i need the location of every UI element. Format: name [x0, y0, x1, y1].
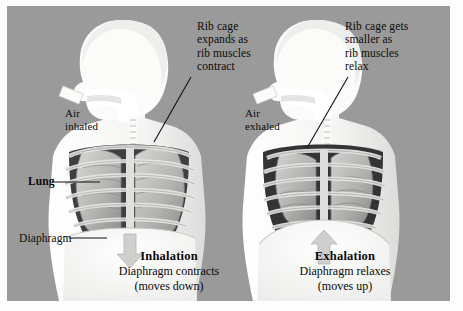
caption-line-1: Diaphragm contracts [89, 264, 249, 279]
caption-line-2: (moves down) [89, 279, 249, 294]
annotation-ribcage-exhale: Rib cage gets smaller as rib muscles rel… [345, 20, 408, 74]
breathing-diagram: Rib cage expands as rib muscles contract… [0, 0, 463, 311]
caption-title: Inhalation [89, 249, 249, 264]
caption-line-1: Diaphragm relaxes [265, 264, 425, 279]
annotation-diaphragm: Diaphragm [19, 232, 72, 245]
sternum [126, 148, 134, 232]
annotation-air-exhaled: Air exhaled [245, 107, 280, 133]
annotation-lung: Lung [28, 175, 55, 188]
diagram-panel: Rib cage expands as rib muscles contract… [7, 6, 450, 301]
caption-exhalation: Exhalation Diaphragm relaxes (moves up) [265, 249, 425, 293]
caption-inhalation: Inhalation Diaphragm contracts (moves do… [89, 249, 249, 293]
annotation-ribcage-inhale: Rib cage expands as rib muscles contract [197, 20, 251, 74]
arrow-out-of-mouth-icon [253, 86, 277, 104]
annotation-air-inhaled: Air inhaled [65, 107, 98, 133]
sternum [320, 150, 328, 230]
caption-line-2: (moves up) [265, 279, 425, 294]
caption-title: Exhalation [265, 249, 425, 264]
